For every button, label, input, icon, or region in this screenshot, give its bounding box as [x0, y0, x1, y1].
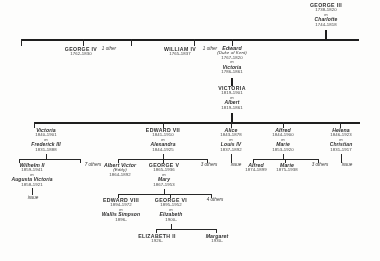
person-dates: 1765-1837	[164, 52, 196, 56]
person-node-victoria[interactable]: VICTORIA 1819-1901 m Albert 1819-1861	[218, 86, 246, 110]
connector-sibling-bar-alfred	[253, 159, 319, 160]
spouse-dates: 1819-1861	[218, 106, 246, 110]
connector-drop-george3	[325, 30, 327, 39]
connector-sibling-bar-gen2	[21, 39, 359, 41]
spouse-dates: 1853-1920	[272, 148, 293, 152]
connector-tick-other2	[194, 39, 195, 46]
connector-sibling-bar-victoria-pr	[19, 159, 81, 160]
person-name: 3 others	[312, 163, 329, 168]
person-name: 7 others	[85, 163, 102, 168]
person-name: issue	[28, 196, 39, 201]
spouse-dates: 1900-	[155, 218, 187, 222]
person-dates: 1926-	[138, 239, 176, 243]
person-node-others4[interactable]: 4 others	[207, 198, 224, 203]
person-node-issue-helena[interactable]: issue	[342, 163, 353, 168]
person-dates: 1762-1830	[65, 52, 97, 56]
person-node-marie-jr[interactable]: Marie 1875-1938	[276, 163, 297, 173]
person-node-issue-alice[interactable]: issue	[231, 163, 242, 168]
connector-sibling-bar-gen4	[34, 122, 360, 124]
person-node-victoria-pr[interactable]: Victoria 1840-1901 m Frederick III 1831-…	[31, 128, 60, 152]
connector-tick-others7	[80, 159, 81, 163]
person-node-margaret[interactable]: Margaret 1930-	[206, 234, 229, 244]
connector-sibling-bar-george6	[156, 229, 217, 230]
person-node-alfred[interactable]: Alfred 1844-1900 m Marie 1853-1920	[272, 128, 293, 152]
person-node-helena[interactable]: Helena 1846-1923 m Christian 1831-1917	[330, 128, 353, 152]
spouse-dates: 1744-1818	[310, 23, 342, 27]
connector-drop-victoria	[231, 113, 233, 122]
person-node-albert-victor[interactable]: Albert Victor (Eddy) 1864-1892	[104, 163, 136, 177]
person-node-others3b[interactable]: 3 others	[312, 163, 329, 168]
person-node-george5[interactable]: GEORGE V 1865-1936 m Mary 1867-1953	[149, 163, 179, 187]
person-node-other2[interactable]: 1 other	[203, 47, 217, 52]
person-node-others7[interactable]: 7 others	[85, 163, 102, 168]
person-node-edward-kent[interactable]: Edward (Duke of Kent) 1767-1820 m Victor…	[217, 46, 247, 75]
person-dates: 1875-1938	[276, 168, 297, 172]
connector-tick-william4	[131, 39, 132, 46]
spouse-dates: 1858-1921	[11, 183, 52, 187]
person-node-george4[interactable]: GEORGE IV 1762-1830	[65, 47, 97, 57]
person-name: issue	[231, 163, 242, 168]
connector-tick-other1	[83, 39, 84, 46]
spouse-dates: 1831-1917	[330, 148, 353, 152]
spouse-dates: 1786-1861	[217, 70, 247, 74]
person-name: issue	[342, 163, 353, 168]
person-name: 1 other	[102, 47, 116, 52]
person-node-others3a[interactable]: 3 others	[201, 163, 218, 168]
connector-drop-wilhelm2	[32, 188, 33, 195]
person-node-edward7[interactable]: EDWARD VII 1841-1910 m Alexandra 1844-19…	[146, 128, 180, 152]
person-name: 4 others	[207, 198, 224, 203]
person-name: 3 others	[201, 163, 218, 168]
person-node-george6[interactable]: GEORGE VI 1895-1952 m Elizabeth 1900-	[155, 198, 187, 222]
spouse-dates: 1844-1925	[146, 148, 180, 152]
person-node-other1[interactable]: 1 other	[102, 47, 116, 52]
person-name: 1 other	[203, 47, 217, 52]
person-node-elizabeth2[interactable]: ELIZABETH II 1926-	[138, 234, 176, 244]
person-node-george3[interactable]: GEORGE III 1738-1820 m Charlotte 1744-18…	[310, 3, 342, 27]
connector-sibling-bar-george5	[118, 194, 212, 195]
person-node-edward8[interactable]: EDWARD VIII 1894-1972 m Wallis Simpson 1…	[102, 198, 140, 222]
person-node-alfred-jr[interactable]: Alfred 1874-1899	[245, 163, 266, 173]
spouse-dates: 1896-	[102, 218, 140, 222]
family-tree-diagram: GEORGE III 1738-1820 m Charlotte 1744-18…	[0, 0, 380, 261]
person-dates: 1864-1892	[104, 173, 136, 177]
person-dates: 1930-	[206, 239, 229, 243]
spouse-dates: 1867-1953	[149, 183, 179, 187]
person-dates: 1874-1899	[245, 168, 266, 172]
connector-tick-george4	[21, 39, 22, 46]
person-node-wilhelm2[interactable]: Wilhelm II 1859-1941 m Augusta Victoria …	[11, 163, 52, 187]
spouse-dates: 1837-1892	[220, 148, 241, 152]
person-node-william4[interactable]: WILLIAM IV 1765-1837	[164, 47, 196, 57]
spouse-dates: 1831-1888	[31, 148, 60, 152]
person-node-issue-wilhelm[interactable]: issue	[28, 196, 39, 201]
person-node-alice[interactable]: Alice 1843-1878 m Louis IV 1837-1892	[220, 128, 241, 152]
